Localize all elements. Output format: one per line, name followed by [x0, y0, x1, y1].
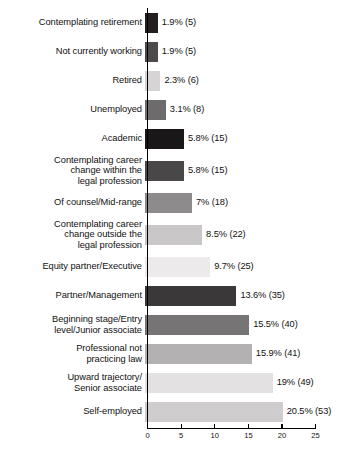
bar-zone: 2.3% (6) — [145, 66, 354, 95]
category-label-line: Professional not — [0, 343, 142, 354]
x-axis-tick-label: 10 — [211, 432, 219, 440]
x-axis-tick-label: 5 — [179, 432, 183, 440]
bar-value-label: 5.8% (15) — [184, 165, 227, 176]
category-label-line: Senior associate — [0, 383, 142, 394]
bar[interactable] — [145, 129, 184, 149]
chart-row: Contemplating retirement1.9% (5) — [0, 8, 354, 37]
bar-value-label: 13.6% (35) — [236, 290, 284, 301]
category-label: Professional notpracticing law — [0, 343, 145, 364]
category-label: Partner/Management — [0, 290, 145, 301]
bar-value-label: 9.7% (25) — [210, 261, 253, 272]
bar[interactable] — [145, 344, 252, 364]
bar-value-label: 7% (18) — [192, 197, 228, 208]
bar-value-label: 3.1% (8) — [166, 104, 204, 115]
chart-row: Contemplating careerchange outside thele… — [0, 217, 354, 252]
bar[interactable] — [145, 71, 160, 91]
category-label-line: practicing law — [0, 354, 142, 365]
bar-zone: 7% (18) — [145, 188, 354, 217]
x-axis-tick-label: 20 — [278, 432, 286, 440]
x-axis-tick-label: 0 — [145, 432, 149, 440]
category-label: Equity partner/Executive — [0, 261, 145, 272]
category-label: Academic — [0, 133, 145, 144]
bar[interactable] — [145, 100, 166, 120]
x-axis-line — [147, 428, 316, 429]
chart-row: Not currently working1.9% (5) — [0, 37, 354, 66]
chart-row: Academic5.8% (15) — [0, 124, 354, 153]
bar[interactable] — [145, 286, 236, 306]
bar[interactable] — [145, 225, 202, 245]
category-label-line: Upward trajectory/ — [0, 372, 142, 383]
chart-row: Retired2.3% (6) — [0, 66, 354, 95]
bar[interactable] — [145, 42, 158, 62]
chart-row: Beginning stage/Entrylevel/Junior associ… — [0, 310, 354, 339]
category-label-line: Of counsel/Mid-range — [0, 197, 142, 208]
bar-value-label: 19% (49) — [273, 377, 314, 388]
category-label-line: Contemplating retirement — [0, 17, 142, 28]
category-label-line: Contemplating career — [0, 219, 142, 230]
chart-row: Contemplating careerchange within theleg… — [0, 153, 354, 188]
category-label: Upward trajectory/Senior associate — [0, 372, 145, 393]
category-label-line: Partner/Management — [0, 290, 142, 301]
chart-row: Partner/Management13.6% (35) — [0, 281, 354, 310]
bar-value-label: 2.3% (6) — [160, 75, 198, 86]
category-label: Retired — [0, 75, 145, 86]
bar-zone: 9.7% (25) — [145, 252, 354, 281]
chart-row: Professional notpracticing law15.9% (41) — [0, 339, 354, 368]
category-label-line: Contemplating career — [0, 155, 142, 166]
category-label: Beginning stage/Entrylevel/Junior associ… — [0, 314, 145, 335]
bar-zone: 15.5% (40) — [145, 310, 354, 339]
bar-zone: 19% (49) — [145, 368, 354, 397]
category-label-line: level/Junior associate — [0, 325, 142, 336]
category-label-line: Academic — [0, 133, 142, 144]
chart-rows: Contemplating retirement1.9% (5)Not curr… — [0, 8, 354, 426]
bar[interactable] — [145, 193, 192, 213]
bar-value-label: 15.5% (40) — [249, 319, 297, 330]
bar[interactable] — [145, 402, 283, 422]
x-axis-tick-label: 15 — [244, 432, 252, 440]
chart-row: Upward trajectory/Senior associate19% (4… — [0, 368, 354, 397]
category-label-line: Retired — [0, 75, 142, 86]
bar-value-label: 1.9% (5) — [158, 46, 196, 57]
bar-zone: 1.9% (5) — [145, 37, 354, 66]
bar-chart: Contemplating retirement1.9% (5)Not curr… — [0, 0, 354, 455]
bar-value-label: 8.5% (22) — [202, 229, 245, 240]
category-label-line: Self-employed — [0, 406, 142, 417]
category-label: Contemplating careerchange within theleg… — [0, 155, 145, 187]
chart-row: Self-employed20.5% (53) — [0, 397, 354, 426]
category-label-line: legal profession — [0, 176, 142, 187]
bar-value-label: 20.5% (53) — [283, 406, 331, 417]
bar[interactable] — [145, 13, 158, 33]
category-label-line: change outside the — [0, 229, 142, 240]
bar-zone: 13.6% (35) — [145, 281, 354, 310]
x-axis-tick-label: 25 — [311, 432, 319, 440]
bar[interactable] — [145, 315, 249, 335]
category-label-line: Unemployed — [0, 104, 142, 115]
bar-value-label: 15.9% (41) — [252, 348, 300, 359]
chart-row: Equity partner/Executive9.7% (25) — [0, 252, 354, 281]
category-label: Not currently working — [0, 46, 145, 57]
chart-row: Unemployed3.1% (8) — [0, 95, 354, 124]
category-label-line: Not currently working — [0, 46, 142, 57]
bar[interactable] — [145, 257, 210, 277]
bar-zone: 5.8% (15) — [145, 124, 354, 153]
category-label-line: change within the — [0, 165, 142, 176]
chart-row: Of counsel/Mid-range7% (18) — [0, 188, 354, 217]
bar-zone: 20.5% (53) — [145, 397, 354, 426]
bar[interactable] — [145, 373, 273, 393]
category-label-line: legal profession — [0, 240, 142, 251]
bar-zone: 15.9% (41) — [145, 339, 354, 368]
category-label: Self-employed — [0, 406, 145, 417]
bar-value-label: 5.8% (15) — [184, 133, 227, 144]
bar-zone: 8.5% (22) — [145, 217, 354, 252]
bar-zone: 3.1% (8) — [145, 95, 354, 124]
category-label-line: Beginning stage/Entry — [0, 314, 142, 325]
category-label-line: Equity partner/Executive — [0, 261, 142, 272]
bar-zone: 5.8% (15) — [145, 153, 354, 188]
category-label: Contemplating retirement — [0, 17, 145, 28]
category-label: Unemployed — [0, 104, 145, 115]
bar-value-label: 1.9% (5) — [158, 17, 196, 28]
category-label: Contemplating careerchange outside thele… — [0, 219, 145, 251]
bar[interactable] — [145, 161, 184, 181]
bar-zone: 1.9% (5) — [145, 8, 354, 37]
category-label: Of counsel/Mid-range — [0, 197, 145, 208]
